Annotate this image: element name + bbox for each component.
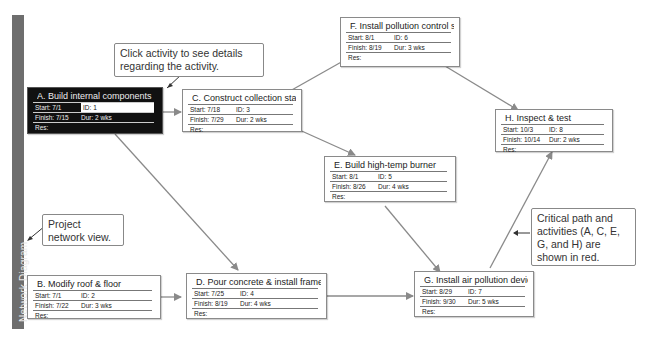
finish-label: Finish:: [35, 302, 54, 309]
dur-value: 2 wks: [95, 114, 112, 121]
start-label: Start:: [503, 126, 519, 133]
link-c-e: [295, 128, 355, 155]
callout-network-view: Project network view.: [42, 214, 124, 246]
activity-node-h[interactable]: H. Inspect & test Start: 10/3ID: 8 Finis…: [495, 109, 613, 152]
id-value: 1: [93, 104, 97, 111]
dur-value: 4 wks: [254, 300, 271, 307]
id-label: ID:: [81, 292, 89, 299]
id-value: 8: [559, 126, 563, 133]
start-value: 8/29: [439, 288, 452, 295]
callout-critical-path: Critical path and activities (A, C, E, G…: [531, 208, 636, 266]
start-value: 7/1: [52, 104, 61, 111]
activity-title: D. Pour concrete & install frame: [196, 276, 321, 288]
dur-value: 5 wks: [482, 298, 499, 305]
id-label: ID:: [378, 173, 386, 180]
dur-label: Dur:: [81, 114, 93, 121]
start-value: 7/1: [52, 292, 61, 299]
dur-label: Dur:: [240, 300, 252, 307]
start-label: Start:: [194, 290, 210, 297]
id-value: 4: [250, 290, 254, 297]
start-label: Start:: [35, 292, 51, 299]
start-label: Start:: [332, 173, 348, 180]
start-label: Start:: [422, 288, 438, 295]
dur-label: Dur:: [468, 298, 480, 305]
finish-value: 7/22: [56, 302, 69, 309]
finish-label: Finish:: [35, 114, 54, 121]
dur-value: 4 wks: [392, 183, 409, 190]
finish-label: Finish:: [332, 183, 351, 190]
activity-node-a[interactable]: A. Build internal components Start: 7/1I…: [27, 87, 163, 134]
finish-value: 7/15: [56, 114, 69, 121]
finish-value: 7/29: [211, 116, 224, 123]
activity-node-g[interactable]: G. Install air pollution device Start: 8…: [414, 271, 534, 317]
finish-label: Finish:: [348, 44, 367, 51]
res-label: Res:: [422, 307, 435, 316]
finish-label: Finish:: [194, 300, 213, 307]
activity-title: C. Construct collection stack: [192, 92, 296, 104]
activity-node-d[interactable]: D. Pour concrete & install frame Start: …: [186, 273, 327, 319]
activity-title: F. Install pollution control system: [350, 20, 454, 32]
dur-label: Dur:: [81, 302, 93, 309]
start-value: 7/25: [211, 290, 224, 297]
id-label: ID:: [549, 126, 557, 133]
activity-title: E. Build high-temp burner: [334, 159, 450, 171]
link-f-h: [445, 66, 518, 110]
start-label: Start:: [190, 106, 206, 113]
activity-node-b[interactable]: B. Modify roof & floor Start: 7/1ID: 2 F…: [27, 275, 161, 319]
finish-value: 8/19: [369, 44, 382, 51]
id-label: ID:: [83, 104, 91, 111]
start-value: 7/18: [207, 106, 220, 113]
dur-label: Dur:: [378, 183, 390, 190]
activity-title: A. Build internal components: [37, 90, 157, 102]
finish-label: Finish:: [422, 298, 441, 305]
id-value: 3: [246, 106, 250, 113]
dur-label: Dur:: [549, 136, 561, 143]
link-e-g: [385, 206, 440, 272]
dur-label: Dur:: [236, 116, 248, 123]
res-label: Res:: [190, 125, 203, 134]
activity-title: B. Modify roof & floor: [37, 278, 155, 290]
finish-value: 8/26: [353, 183, 366, 190]
id-value: 6: [404, 34, 408, 41]
dur-value: 3 wks: [408, 44, 425, 51]
start-value: 8/1: [365, 34, 374, 41]
start-value: 10/3: [520, 126, 533, 133]
dur-label: Dur:: [394, 44, 406, 51]
res-label: Res:: [332, 192, 345, 201]
id-value: 7: [478, 288, 482, 295]
finish-value: 9/30: [443, 298, 456, 305]
finish-value: 10/14: [524, 136, 540, 143]
id-label: ID:: [240, 290, 248, 297]
dur-value: 2 wks: [563, 136, 580, 143]
id-value: 5: [388, 173, 392, 180]
activity-node-e[interactable]: E. Build high-temp burner Start: 8/1ID: …: [324, 156, 456, 202]
finish-label: Finish:: [190, 116, 209, 123]
id-value: 2: [91, 292, 95, 299]
dur-value: 2 wks: [250, 116, 267, 123]
res-label: Res:: [35, 123, 48, 132]
id-label: ID:: [236, 106, 244, 113]
activity-title: H. Inspect & test: [505, 112, 607, 124]
start-label: Start:: [348, 34, 364, 41]
callout-click-activity: Click activity to see details regarding …: [114, 43, 264, 77]
finish-value: 8/19: [215, 300, 228, 307]
finish-label: Finish:: [503, 136, 522, 143]
link-a-d: [115, 134, 238, 270]
start-value: 8/1: [349, 173, 358, 180]
activity-node-f[interactable]: F. Install pollution control system Star…: [340, 17, 460, 67]
activity-title: G. Install air pollution device: [424, 274, 528, 286]
id-label: ID:: [468, 288, 476, 295]
res-label: Res:: [194, 309, 207, 318]
activity-node-c[interactable]: C. Construct collection stack Start: 7/1…: [182, 89, 302, 132]
start-label: Start:: [35, 104, 51, 111]
res-label: Res:: [503, 145, 516, 154]
res-label: Res:: [35, 311, 48, 320]
res-label: Res:: [348, 53, 361, 62]
dur-value: 3 wks: [95, 302, 112, 309]
id-label: ID:: [394, 34, 402, 41]
